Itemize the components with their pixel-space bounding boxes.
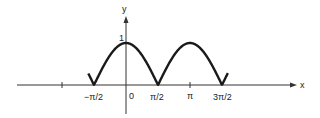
y-tick-one: 1 [119,33,124,43]
x-tick-three-pi-half: 3π/2 [213,92,232,102]
abs-cos-curve [88,43,228,85]
y-axis-arrow-icon [124,16,129,23]
y-axis-label: y [122,4,127,14]
x-tick-zero: 0 [129,91,134,101]
abs-cos-plot: y x 1 −π/2 0 π/2 π 3π/2 [0,0,320,118]
x-tick-neg-pi-half: −π/2 [84,92,103,102]
x-axis-label: x [300,80,305,90]
x-axis-arrow-icon [290,83,297,88]
x-tick-pi: π [187,91,193,101]
x-tick-pi-half: π/2 [150,92,164,102]
